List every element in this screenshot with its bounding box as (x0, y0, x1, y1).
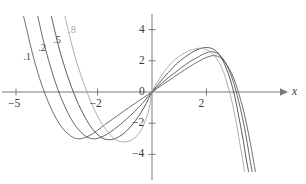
y-tick-label: 4 (139, 24, 145, 36)
chart-figure: −5−22420−2−4 .1.2.5.8 x (0, 0, 306, 184)
curve-label-p1: .1 (23, 52, 31, 63)
y-tick-label: −4 (132, 148, 144, 160)
curve-label-p5: .5 (53, 35, 61, 46)
x-axis-label: x (292, 86, 297, 98)
y-tick-label: −2 (132, 117, 144, 129)
curve-label-p2: .2 (38, 43, 46, 54)
y-tick-label: 2 (139, 55, 145, 67)
plot-area (0, 0, 306, 184)
x-tick-label: −2 (90, 98, 102, 110)
x-tick-label: 2 (198, 98, 204, 110)
y-tick-label: 0 (139, 86, 145, 98)
x-axis-arrowhead (280, 88, 288, 95)
curve-label-p8: .8 (68, 25, 76, 36)
x-tick-label: −5 (8, 98, 20, 110)
curve-p8 (65, 16, 245, 171)
